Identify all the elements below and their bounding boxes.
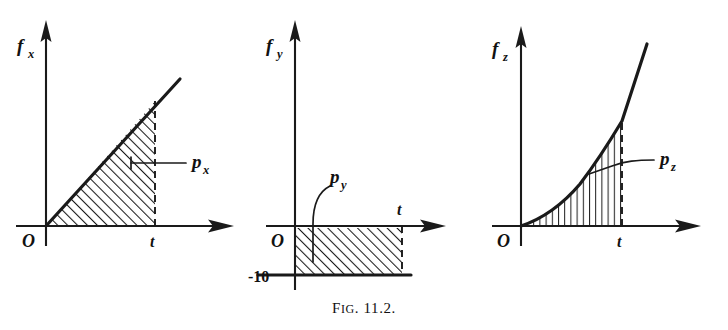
figure-canvas: f x O t p x f y O [0, 0, 728, 300]
region-label-px: p [190, 151, 202, 172]
tick-label-t-fz: t [617, 233, 622, 250]
axis-label-fz: f [492, 38, 500, 59]
caption-ig: IG [341, 302, 355, 316]
shaded-area-py [295, 228, 402, 275]
value-label-minus10: -10 [248, 268, 269, 285]
figure-caption: FIG. 11.2. [0, 300, 728, 317]
region-label-px-subscript: x [202, 163, 209, 177]
axis-label-fy-subscript: y [275, 47, 283, 61]
figure-root: f x O t p x f y O [0, 0, 728, 330]
panel-fz: f z O t p z [492, 26, 701, 251]
axis-label-fy: f [266, 35, 274, 56]
origin-label-fx: O [22, 231, 35, 251]
origin-label-fz: O [497, 231, 510, 251]
axis-label-fx-subscript: x [27, 47, 34, 61]
region-label-pz: p [658, 148, 670, 169]
axis-label-fz-subscript: z [502, 50, 508, 64]
axis-label-fx: f [17, 35, 25, 56]
region-label-py-subscript: y [339, 178, 347, 192]
origin-label-fy: O [271, 231, 284, 251]
tick-label-t-fy: t [397, 201, 402, 218]
tick-label-t-fx: t [150, 233, 155, 250]
region-label-py: p [328, 166, 340, 187]
shaded-area-pz [521, 121, 622, 226]
caption-f: F [332, 300, 341, 316]
panel-fy: f y O t -10 p y [248, 20, 446, 290]
region-label-pz-subscript: z [670, 160, 676, 174]
panel-fx: f x O t p x [16, 20, 234, 251]
caption-number: . 11.2. [355, 300, 396, 316]
